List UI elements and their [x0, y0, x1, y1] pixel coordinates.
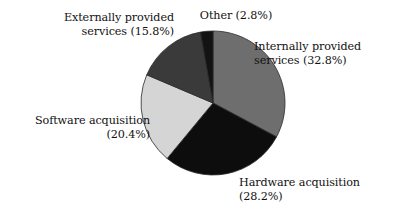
pie-label-internally-provided-services: Internally provided services (32.8%) [254, 40, 402, 67]
pie-label-hardware-acquisition: Hardware acquisition (28.2%) [239, 176, 399, 203]
pie-label-externally-provided-services: Externally provided services (15.8%) [28, 11, 174, 38]
pie-label-other: Other (2.8%) [178, 9, 294, 23]
pie-chart: Externally provided services (15.8%) Oth… [0, 0, 402, 218]
pie-label-software-acquisition: Software acquisition (20.4%) [4, 114, 150, 141]
